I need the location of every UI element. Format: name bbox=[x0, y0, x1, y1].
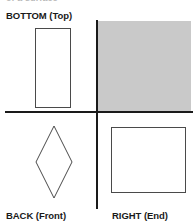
right-view-rectangle bbox=[111, 127, 186, 193]
clipped-header-text: of a surface bbox=[6, 0, 76, 3]
label-bottom-top: BOTTOM (Top) bbox=[6, 10, 72, 21]
label-back-front: BACK (Front) bbox=[6, 210, 66, 221]
vertical-axis-line bbox=[96, 20, 98, 209]
back-view-diamond bbox=[34, 124, 74, 200]
diamond-icon bbox=[34, 124, 74, 200]
horizontal-axis-line bbox=[5, 111, 193, 113]
bottom-view-rectangle bbox=[35, 28, 71, 108]
shaded-quadrant-upper-right bbox=[97, 21, 191, 112]
orthographic-projection-figure: of a surface BOTTOM (Top) BACK (Front) R… bbox=[0, 0, 193, 224]
label-right-end: RIGHT (End) bbox=[112, 210, 168, 221]
